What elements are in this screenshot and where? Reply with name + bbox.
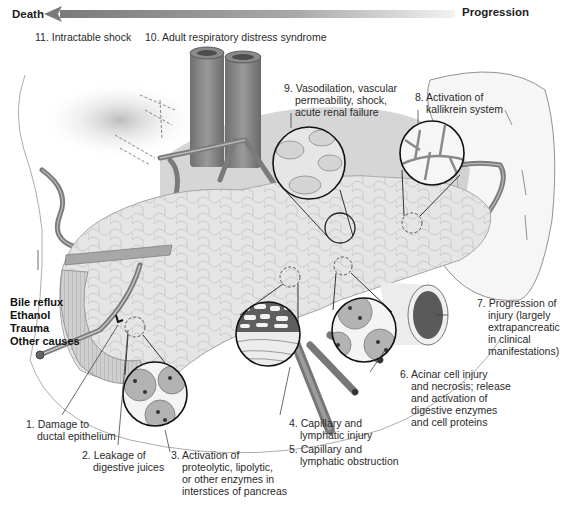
step-7-label: 7. Progression of injury (largely extrap… bbox=[477, 297, 560, 357]
step-1-label: 1. Damage to ductal epithelium bbox=[26, 418, 116, 442]
step-8-label: 8. Activation of kallikrein system bbox=[415, 91, 503, 115]
step-3-label: 3. Activation of proteolytic, lipolytic,… bbox=[171, 449, 287, 497]
step-4-label: 4. Capillary and lymphatic injury bbox=[289, 417, 372, 441]
step-9-label: 9. Vasodilation, vascular permeability, … bbox=[284, 82, 397, 118]
magnifier-capillary bbox=[236, 302, 300, 366]
progression-arrow bbox=[44, 6, 455, 22]
step-5-label: 5. Capillary and lymphatic obstruction bbox=[289, 443, 399, 467]
magnifier-acinar-cells bbox=[123, 362, 187, 430]
cause-item: Trauma bbox=[10, 322, 80, 335]
causes-list: Bile reflux Ethanol Trauma Other causes bbox=[10, 296, 80, 348]
step-11-label: 11. Intractable shock bbox=[35, 31, 131, 43]
step-6-label: 6. Acinar cell injury and necrosis; rele… bbox=[400, 368, 511, 428]
cause-item: Other causes bbox=[10, 335, 80, 348]
step-10-label: 10. Adult respiratory distress syndrome bbox=[145, 31, 327, 43]
cause-item: Bile reflux bbox=[10, 296, 80, 309]
cause-item: Ethanol bbox=[10, 309, 80, 322]
step-2-label: 2. Leakage of digestive juices bbox=[82, 449, 164, 473]
magnifier-kallikrein bbox=[400, 121, 465, 185]
arrow-shaft bbox=[60, 10, 455, 18]
arrow-head-icon bbox=[44, 6, 62, 22]
magnifier-vasodilation bbox=[273, 127, 345, 199]
death-label: Death bbox=[12, 8, 44, 20]
progression-label: Progression bbox=[462, 6, 529, 18]
pancreatitis-diagram: Death Progression 11. Intractable shock … bbox=[0, 0, 567, 510]
